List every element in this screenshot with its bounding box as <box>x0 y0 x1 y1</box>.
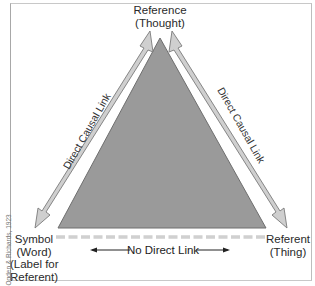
node-reference-title: Reference <box>115 4 205 17</box>
node-symbol-label: Symbol (Word) (Label for Referent) <box>10 233 58 283</box>
bottom-right-arrow-icon <box>196 248 230 253</box>
node-referent-label: Referent (Thing) <box>262 233 314 259</box>
credit-text: Ogden & Richards, 1923 <box>5 226 12 286</box>
node-reference-subtitle: (Thought) <box>115 17 205 30</box>
node-symbol-note-1: (Label for <box>10 258 58 271</box>
node-referent-subtitle: (Thing) <box>262 246 314 259</box>
bottom-edge-label: No Direct Link <box>127 244 199 256</box>
bottom-left-arrow-icon <box>90 248 130 253</box>
node-reference-label: Reference (Thought) <box>115 4 205 30</box>
node-symbol-note-2: Referent) <box>10 271 58 284</box>
node-symbol-subtitle: (Word) <box>10 246 58 259</box>
node-symbol-title: Symbol <box>10 233 58 246</box>
node-referent-title: Referent <box>262 233 314 246</box>
